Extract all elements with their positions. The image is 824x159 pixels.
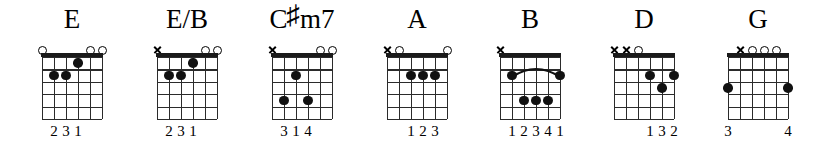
- finger-dot: [723, 83, 733, 93]
- chord-diagram: A123: [365, 0, 469, 159]
- string-line: [764, 57, 765, 119]
- fret-line: [614, 69, 674, 70]
- chord-name: C♯m7: [250, 4, 354, 34]
- fret-line: [500, 107, 560, 108]
- string-line: [66, 57, 67, 119]
- finger-dot: [783, 83, 793, 93]
- finger-numbers: 123: [365, 122, 469, 146]
- fret-line: [500, 119, 560, 120]
- string-line: [614, 57, 615, 119]
- finger-dot: [657, 83, 667, 93]
- finger-dot: [49, 71, 59, 81]
- chord-diagram: B12341: [478, 0, 582, 159]
- fret-line: [728, 57, 788, 58]
- string-line: [512, 57, 513, 119]
- string-line: [54, 57, 55, 119]
- fret-line: [728, 119, 788, 120]
- fret-line: [42, 107, 102, 108]
- chord-name: G: [706, 4, 810, 34]
- finger-dot: [164, 71, 174, 81]
- string-line: [740, 57, 741, 119]
- fret-line: [728, 82, 788, 83]
- chord-diagram: E231: [20, 0, 124, 159]
- string-line: [423, 57, 424, 119]
- finger-number: 1: [186, 122, 200, 140]
- fret-line: [614, 119, 674, 120]
- fret-line: [614, 107, 674, 108]
- string-line: [524, 57, 525, 119]
- chord-name: E/B: [135, 4, 239, 34]
- finger-number: 1: [553, 122, 567, 140]
- finger-number: 4: [781, 122, 795, 140]
- string-line: [560, 57, 561, 119]
- finger-numbers: 231: [20, 122, 124, 146]
- chord-chart-sheet: E231E/B231C♯m7314A123B12341D132G34: [0, 0, 824, 159]
- string-line: [320, 57, 321, 119]
- fret-line: [614, 94, 674, 95]
- chord-root: D: [634, 4, 654, 34]
- fretboard-grid: [272, 57, 332, 119]
- string-line: [447, 57, 448, 119]
- finger-number: 2: [667, 122, 681, 140]
- string-line: [776, 57, 777, 119]
- finger-dot: [61, 71, 71, 81]
- chord-root: A: [407, 4, 427, 34]
- fret-line: [272, 82, 332, 83]
- finger-dot: [430, 71, 440, 81]
- string-line: [181, 57, 182, 119]
- string-line: [411, 57, 412, 119]
- fret-line: [42, 119, 102, 120]
- string-line: [752, 57, 753, 119]
- string-line: [296, 57, 297, 119]
- finger-dot: [555, 71, 565, 81]
- fret-line: [387, 69, 447, 70]
- fret-line: [387, 57, 447, 58]
- fretboard-grid: [614, 57, 674, 119]
- finger-dot: [645, 71, 655, 81]
- finger-dot: [188, 58, 198, 68]
- string-line: [42, 57, 43, 119]
- string-line: [205, 57, 206, 119]
- string-line: [435, 57, 436, 119]
- finger-dot: [279, 96, 289, 106]
- string-line: [308, 57, 309, 119]
- fret-line: [387, 82, 447, 83]
- chord-quality: m7: [300, 4, 335, 34]
- fret-line: [157, 57, 217, 58]
- string-line: [169, 57, 170, 119]
- fret-line: [272, 119, 332, 120]
- fret-line: [728, 69, 788, 70]
- fret-line: [157, 94, 217, 95]
- fret-line: [157, 107, 217, 108]
- finger-dot: [73, 58, 83, 68]
- fretboard-grid: [42, 57, 102, 119]
- finger-dot: [669, 71, 679, 81]
- string-line: [387, 57, 388, 119]
- chord-diagram: C♯m7314: [250, 0, 354, 159]
- chord-name: E: [20, 4, 124, 34]
- sharp-icon: ♯: [287, 0, 301, 30]
- fret-line: [272, 57, 332, 58]
- fret-line: [272, 69, 332, 70]
- finger-number: 3: [721, 122, 735, 140]
- fret-line: [500, 94, 560, 95]
- chord-root: G: [748, 4, 768, 34]
- chord-root: B: [521, 4, 539, 34]
- finger-dot: [531, 96, 541, 106]
- finger-dot: [176, 71, 186, 81]
- string-line: [536, 57, 537, 119]
- finger-numbers: 314: [250, 122, 354, 146]
- fret-line: [42, 57, 102, 58]
- string-line: [90, 57, 91, 119]
- string-line: [674, 57, 675, 119]
- string-line: [284, 57, 285, 119]
- finger-number: 1: [71, 122, 85, 140]
- fret-line: [728, 94, 788, 95]
- finger-dot: [291, 71, 301, 81]
- finger-number: 4: [301, 122, 315, 140]
- string-line: [399, 57, 400, 119]
- finger-dot: [406, 71, 416, 81]
- fret-line: [272, 107, 332, 108]
- fret-line: [728, 107, 788, 108]
- fret-line: [42, 94, 102, 95]
